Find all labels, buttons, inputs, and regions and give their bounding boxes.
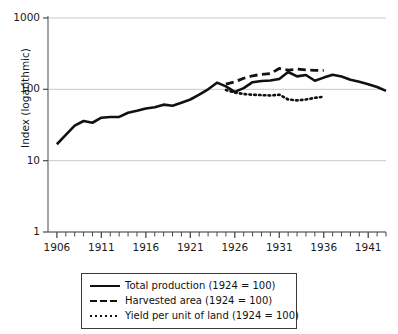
x-tick-label: 1911: [81, 241, 121, 253]
chart-figure: Index (logarithmic) 1101001000 190619111…: [0, 0, 398, 334]
data-series-layer: [57, 68, 386, 144]
legend-swatch-solid-icon: [88, 280, 122, 292]
legend-label: Yield per unit of land (1924 = 100): [125, 310, 299, 322]
chart-legend: Total production (1924 = 100) Harvested …: [81, 273, 297, 329]
legend-label: Total production (1924 = 100): [125, 280, 275, 292]
axis-lines: [48, 16, 386, 232]
legend-item: Yield per unit of land (1924 = 100): [88, 308, 290, 323]
series-line-2: [226, 90, 324, 100]
x-tick-label: 1906: [37, 241, 77, 253]
y-tick-label: 1000: [6, 11, 40, 23]
x-tick-label: 1916: [126, 241, 166, 253]
series-line-0: [57, 72, 386, 144]
y-tick-label: 10: [6, 154, 40, 166]
gridlines: [48, 18, 386, 232]
x-tick-label: 1921: [170, 241, 210, 253]
y-tick-label: 100: [6, 82, 40, 94]
legend-label: Harvested area (1924 = 100): [125, 295, 272, 307]
legend-item: Total production (1924 = 100): [88, 278, 290, 293]
legend-swatch-dotted-icon: [88, 310, 122, 322]
legend-swatch-dashed-icon: [88, 295, 122, 307]
x-tick-label: 1936: [304, 241, 344, 253]
y-tick-label: 1: [6, 225, 40, 237]
legend-item: Harvested area (1924 = 100): [88, 293, 290, 308]
x-tick-label: 1926: [215, 241, 255, 253]
x-tick-label: 1931: [259, 241, 299, 253]
x-tick-label: 1941: [348, 241, 388, 253]
axis-ticks: [43, 18, 386, 238]
